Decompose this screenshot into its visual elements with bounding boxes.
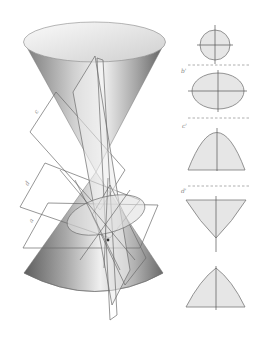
plane-label-a: a xyxy=(27,217,35,224)
conic-sections-diagram: c d a b' c' d' xyxy=(0,0,263,337)
ellipse-section-2d xyxy=(188,70,247,112)
upper-cone-top xyxy=(24,22,166,62)
section-label-c: c' xyxy=(182,122,187,129)
parabola-section xyxy=(188,128,245,171)
section-label-d: d' xyxy=(181,187,187,194)
plane-label-d: d xyxy=(23,180,31,187)
section-label-b: b' xyxy=(181,67,187,74)
plane-label-c: c xyxy=(32,107,40,114)
hyperbola-upper-branch xyxy=(186,196,246,252)
section-shapes: b' c' d' xyxy=(181,25,250,310)
circle-section xyxy=(197,25,233,64)
hyperbola-lower-branch xyxy=(186,266,245,310)
